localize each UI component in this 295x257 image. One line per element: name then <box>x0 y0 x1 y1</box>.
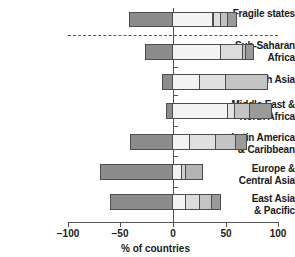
zero-tick-4 <box>173 156 178 157</box>
x-axis-tick--100 <box>68 222 69 227</box>
bar-segment-c <box>185 164 203 180</box>
bar-segment-a <box>172 74 200 90</box>
bar-segment-d <box>245 44 254 60</box>
x-axis-tick-label--100: −100 <box>48 228 88 239</box>
x-axis-tick-label--50: −50 <box>100 228 140 239</box>
x-axis-tick-50 <box>226 222 227 227</box>
x-axis-tick-label-100: 100 <box>258 228 295 239</box>
zero-tick-1 <box>173 67 178 68</box>
bar-segment-c <box>225 74 268 90</box>
bar-segment-d <box>227 12 237 27</box>
bar-segment-b <box>185 194 200 210</box>
bar-segment-negative <box>130 134 173 150</box>
chart-container: Fragile states Sub-Saharan Africa South … <box>0 0 295 257</box>
zero-tick-2 <box>173 95 178 96</box>
bar-segment-d <box>211 194 221 210</box>
bar-segment-a <box>172 134 190 150</box>
bar-segment-b <box>189 134 216 150</box>
bar-segment-negative <box>100 164 173 180</box>
bar-segment-c <box>234 103 250 119</box>
bar-segment-b <box>199 74 226 90</box>
bar-segment-b <box>220 44 243 60</box>
x-axis-tick-label-0: 0 <box>153 228 193 239</box>
x-axis-tick-label-50: 50 <box>206 228 246 239</box>
bar-segment-d <box>235 134 247 150</box>
x-axis-tick-0 <box>173 222 174 227</box>
bar-segment-a <box>172 12 213 27</box>
bar-segment-c <box>215 134 236 150</box>
zero-tick-5 <box>173 187 178 188</box>
x-axis-tick-100 <box>278 222 279 227</box>
bar-segment-negative <box>145 44 173 60</box>
bar-segment-a <box>172 44 221 60</box>
bar-segment-a <box>172 103 228 119</box>
plot-area <box>0 0 295 230</box>
bar-segment-a <box>172 194 186 210</box>
zero-tick-3 <box>173 126 178 127</box>
bar-segment-negative <box>110 194 173 210</box>
bar-segment-d <box>249 103 272 119</box>
x-axis-tick--50 <box>120 222 121 227</box>
bar-segment-negative <box>129 12 173 27</box>
x-axis-title: % of countries <box>8 243 295 254</box>
fragile-states-separator <box>68 35 278 36</box>
